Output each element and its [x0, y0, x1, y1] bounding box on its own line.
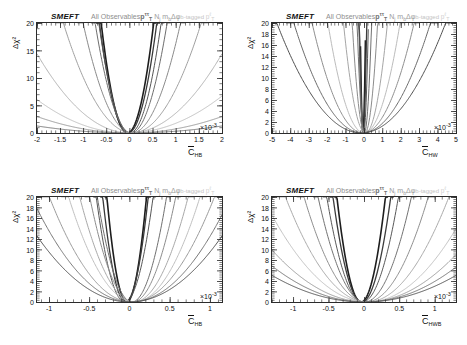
x-minor-tick	[190, 130, 191, 133]
x-minor-tick	[105, 299, 106, 302]
y-minor-tick-right	[219, 224, 222, 225]
y-minor-tick	[37, 298, 40, 299]
y-minor-tick-right	[219, 23, 222, 24]
y-minor-tick-right	[219, 212, 222, 213]
y-minor-tick-right	[453, 80, 456, 81]
x-minor-tick-top	[312, 23, 313, 26]
y-minor-tick	[37, 256, 40, 257]
x-minor-tick	[218, 299, 219, 302]
y-minor-tick-right	[219, 252, 222, 253]
y-minor-tick-right	[453, 63, 456, 64]
x-minor-tick-top	[111, 23, 112, 26]
y-minor-tick-right	[219, 245, 222, 246]
x-minor-tick-top	[204, 23, 205, 26]
y-minor-tick	[272, 296, 275, 297]
x-minor-tick-top	[404, 23, 405, 26]
y-minor-tick	[37, 224, 40, 225]
y-minor-tick-right	[453, 241, 456, 242]
y-minor-tick	[272, 113, 275, 114]
y-minor-tick	[272, 241, 275, 242]
y-tick-label: 0	[30, 299, 34, 306]
x-minor-tick	[171, 130, 172, 133]
x-minor-tick	[430, 130, 431, 133]
x-tick-label: 2	[399, 136, 403, 143]
y-tick-label: 4	[265, 108, 269, 115]
y-minor-tick	[272, 115, 275, 116]
y-minor-tick-right	[453, 203, 456, 204]
y-minor-tick	[37, 67, 40, 68]
y-minor-tick	[272, 63, 275, 64]
x-minor-tick-top	[148, 23, 149, 26]
x-minor-tick	[343, 299, 344, 302]
y-minor-tick-right	[453, 298, 456, 299]
x-minor-tick-top	[393, 23, 394, 26]
x-minor-tick	[393, 130, 394, 133]
x-minor-tick	[419, 130, 420, 133]
y-tick-label: 6	[30, 267, 34, 274]
x-tick-label: -1.5	[54, 136, 66, 143]
y-minor-tick	[272, 264, 275, 265]
y-minor-tick	[272, 25, 275, 26]
y-minor-tick-right	[219, 117, 222, 118]
x-minor-tick	[120, 130, 121, 133]
y-minor-tick	[272, 226, 275, 227]
x-minor-tick-top	[346, 23, 347, 26]
x-minor-tick-top	[399, 197, 400, 200]
curve-fit-5	[85, 197, 181, 302]
observables-label: All Observables	[91, 13, 140, 20]
x-minor-tick-top	[93, 23, 94, 26]
y-minor-tick	[272, 245, 275, 246]
x-minor-tick	[162, 130, 163, 133]
x-minor-tick-top	[309, 23, 310, 26]
y-minor-tick-right	[219, 106, 222, 107]
y-minor-tick	[272, 32, 275, 33]
x-minor-tick-top	[279, 23, 280, 26]
y-minor-tick-right	[219, 273, 222, 274]
x-tick-label: -2	[34, 136, 40, 143]
x-tick-label: -0.5	[323, 305, 335, 312]
y-minor-tick	[272, 281, 275, 282]
x-minor-tick	[331, 130, 332, 133]
y-axis-label: Δχ²	[11, 37, 20, 49]
y-minor-tick-right	[453, 289, 456, 290]
y-minor-tick	[37, 235, 40, 236]
y-minor-tick-right	[219, 275, 222, 276]
x-minor-tick	[379, 130, 380, 133]
x-minor-tick	[427, 130, 428, 133]
y-minor-tick-right	[453, 49, 456, 50]
y-minor-tick-right	[453, 275, 456, 276]
x-minor-tick	[320, 130, 321, 133]
y-minor-tick-right	[453, 294, 456, 295]
x-minor-tick-top	[350, 197, 351, 200]
x-tick-label: -1	[342, 136, 348, 143]
y-minor-tick	[272, 49, 275, 50]
y-minor-tick	[37, 300, 40, 301]
x-minor-tick	[134, 130, 135, 133]
curve-fit-5	[297, 197, 436, 302]
x-minor-tick	[324, 130, 325, 133]
x-minor-tick-top	[180, 23, 181, 26]
y-minor-tick-right	[219, 289, 222, 290]
x-minor-tick-top	[210, 197, 211, 200]
x-minor-tick-top	[385, 197, 386, 200]
y-minor-tick-right	[453, 264, 456, 265]
observable-btagged: b-tagged	[180, 188, 204, 194]
x-minor-tick-top	[146, 197, 147, 200]
x-axis-label: CHW	[422, 147, 438, 157]
y-minor-tick	[37, 250, 40, 251]
x-minor-tick	[286, 299, 287, 302]
x-minor-tick	[138, 299, 139, 302]
y-minor-tick	[37, 56, 40, 57]
x-minor-tick-top	[294, 23, 295, 26]
y-tick-label: 10	[26, 246, 34, 253]
x-minor-tick-top	[130, 23, 131, 26]
y-minor-tick-right	[453, 100, 456, 101]
x-minor-tick	[97, 299, 98, 302]
y-minor-tick	[37, 262, 40, 263]
y-tick-label: 0	[265, 299, 269, 306]
y-minor-tick-right	[219, 45, 222, 46]
y-minor-tick-right	[453, 122, 456, 123]
smeft-tag: SMEFT	[51, 12, 79, 21]
y-minor-tick	[272, 260, 275, 261]
y-minor-tick-right	[453, 25, 456, 26]
